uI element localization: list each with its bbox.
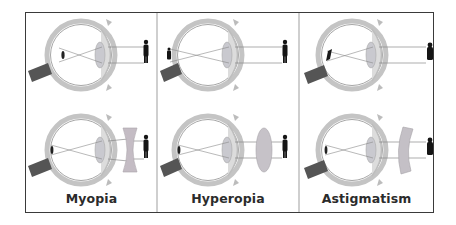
person-icon <box>283 40 288 63</box>
person-icon <box>427 138 433 155</box>
cylindrical-lens-icon <box>398 127 413 174</box>
person-icon <box>144 40 149 63</box>
panel-label-astigmatism: Astigmatism <box>300 191 433 206</box>
person-icon <box>144 135 149 158</box>
panel-label-hyperopia: Hyperopia <box>158 191 298 206</box>
myopia-diagram <box>26 13 157 193</box>
eye-icon <box>28 19 149 91</box>
eye-icon <box>160 19 288 91</box>
astigmatism-diagram <box>300 13 433 193</box>
panel-myopia: Myopia <box>26 13 157 212</box>
blurred-image-icon <box>167 48 171 60</box>
convex-lens-icon <box>256 128 272 172</box>
diagram-frame: Myopia <box>25 12 434 213</box>
panel-label-myopia: Myopia <box>26 191 157 206</box>
eye-icon <box>304 114 433 186</box>
eye-icon <box>28 114 149 186</box>
hyperopia-diagram <box>158 13 298 193</box>
eye-icon <box>160 114 288 186</box>
panel-hyperopia: Hyperopia <box>158 13 298 212</box>
concave-lens-icon <box>123 128 137 172</box>
person-icon <box>427 43 433 60</box>
panel-astigmatism: Astigmatism <box>300 13 433 212</box>
eye-icon <box>304 19 433 91</box>
person-icon <box>283 135 288 158</box>
